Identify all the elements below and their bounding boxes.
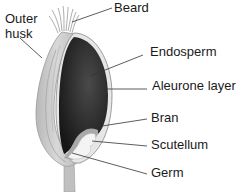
grain-illustration bbox=[0, 0, 245, 192]
label-outer-husk-line2: husk bbox=[5, 27, 32, 41]
label-beard: Beard bbox=[114, 1, 149, 15]
beard-leader bbox=[72, 8, 112, 22]
label-outer-husk-line1: Outer bbox=[5, 12, 38, 26]
label-aleurone-layer: Aleurone layer bbox=[152, 79, 236, 93]
label-bran: Bran bbox=[151, 111, 178, 125]
grain-diagram: Outer husk Beard Endosperm Aleurone laye… bbox=[0, 0, 245, 192]
beard-hairs bbox=[49, 6, 79, 33]
label-endosperm: Endosperm bbox=[150, 45, 216, 59]
label-germ: Germ bbox=[151, 166, 184, 180]
label-scutellum: Scutellum bbox=[151, 138, 208, 152]
outer-husk-leader bbox=[20, 38, 42, 58]
germ-leader bbox=[72, 153, 147, 174]
